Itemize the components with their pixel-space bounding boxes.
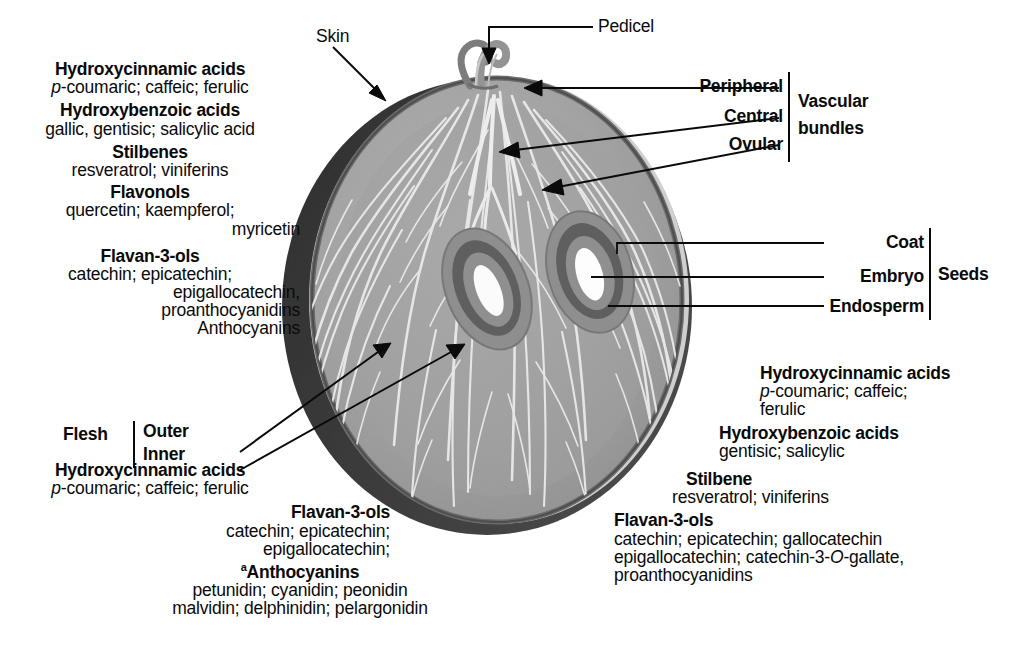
seed-group3-items: resveratrol; viniferins bbox=[598, 488, 1018, 506]
label-embryo: Embryo bbox=[780, 266, 924, 287]
seed-group1-items-line2: ferulic bbox=[598, 400, 1018, 418]
seed-group3-title: Stilbene bbox=[598, 470, 1018, 488]
skin-group2-items: gallic, gentisic; salicylic acid bbox=[0, 120, 300, 138]
label-peripheral: Peripheral bbox=[670, 76, 783, 97]
label-endosperm: Endosperm bbox=[780, 296, 924, 317]
skin-group3-items: resveratrol; viniferins bbox=[0, 161, 300, 179]
skin-group4-items-line2: myricetin bbox=[0, 220, 300, 238]
flesh-compound-list: Hydroxycinnamic acids p-coumaric; caffei… bbox=[0, 461, 420, 617]
label-pedicel: Pedicel bbox=[598, 16, 654, 37]
seed-group4-title: Flavan-3-ols bbox=[598, 511, 1018, 529]
flesh-group2-items-line1: catechin; epicatechin; bbox=[0, 522, 390, 540]
flesh-group2-title: Flavan-3-ols bbox=[0, 503, 390, 521]
skin-group1-title: Hydroxycinnamic acids bbox=[0, 60, 300, 78]
skin-group5-items-line4: Anthocyanins bbox=[0, 319, 300, 337]
flesh-group2-items-line2: epigallocatechin; bbox=[0, 540, 390, 558]
seed-group4-italic-o: O bbox=[830, 547, 843, 567]
figure-canvas: Skin Pedicel Peripheral Central Ovular V… bbox=[0, 0, 1018, 672]
skin-group1-items: p-coumaric; caffeic; ferulic bbox=[0, 78, 300, 96]
label-vascular-bundles-line2: bundles bbox=[798, 118, 864, 139]
arrowhead-skin bbox=[369, 85, 386, 101]
label-seeds: Seeds bbox=[938, 264, 989, 285]
label-flesh: Flesh bbox=[63, 424, 108, 445]
flesh-group3-items-line1: petunidin; cyanidin; peonidin bbox=[0, 581, 600, 599]
flesh-group3-title: aAnthocyanins bbox=[0, 562, 600, 581]
skin-group5-items-line3: proanthocyanidins bbox=[0, 301, 300, 319]
flesh-group3-items-line2: malvidin; delphinidin; pelargonidin bbox=[0, 599, 600, 617]
skin-group2-title: Hydroxybenzoic acids bbox=[0, 101, 300, 119]
seed-group4-line2-c: -gallate, bbox=[843, 547, 903, 567]
seed-group4-items-line3: proanthocyanidins bbox=[598, 566, 1018, 584]
skin-group4-items-line1: quercetin; kaempferol; bbox=[0, 201, 300, 219]
skin-group1-rest: -coumaric; caffeic; ferulic bbox=[61, 77, 249, 97]
label-skin: Skin bbox=[316, 26, 349, 47]
brace-seeds bbox=[929, 228, 931, 320]
skin-group5-items-line2: epigallocatechin, bbox=[0, 283, 300, 301]
skin-group4-title: Flavonols bbox=[0, 183, 300, 201]
skin-group5-title: Flavan-3-ols bbox=[0, 247, 300, 265]
seed-group4-items-line1: catechin; epicatechin; gallocatechin bbox=[598, 530, 1018, 548]
flesh-group1-rest: -coumaric; caffeic; ferulic bbox=[61, 478, 249, 498]
flesh-group3-title-text: Anthocyanins bbox=[247, 562, 360, 582]
seed-group4-items-line2: epigallocatechin; catechin-3-O-gallate, bbox=[598, 548, 1018, 566]
skin-compound-list: Hydroxycinnamic acids p-coumaric; caffei… bbox=[0, 60, 300, 338]
seed-compound-list: Hydroxycinnamic acids p-coumaric; caffei… bbox=[598, 364, 1018, 584]
seed-group1-rest: -coumaric; caffeic; bbox=[770, 381, 908, 401]
seed-group2-items: gentisic; salicylic bbox=[598, 442, 1018, 460]
seed-group4-line2-a: epigallocatechin; catechin-3- bbox=[614, 547, 830, 567]
seed-group2-title: Hydroxybenzoic acids bbox=[598, 424, 1018, 442]
label-outer: Outer bbox=[143, 421, 189, 442]
brace-vascular-bundles bbox=[788, 72, 790, 162]
flesh-group1-items: p-coumaric; caffeic; ferulic bbox=[0, 479, 300, 497]
flesh-group1-title: Hydroxycinnamic acids bbox=[0, 461, 300, 479]
skin-group5-items-line1: catechin; epicatechin; bbox=[0, 265, 300, 283]
skin-group1-italic-p: p bbox=[51, 77, 61, 97]
skin-group3-title: Stilbenes bbox=[0, 143, 300, 161]
flesh-group1-italic-p: p bbox=[51, 478, 61, 498]
seed-group1-italic-p: p bbox=[760, 381, 770, 401]
label-central: Central bbox=[670, 106, 783, 127]
label-vascular-bundles-line1: Vascular bbox=[798, 91, 868, 112]
label-coat: Coat bbox=[780, 232, 924, 253]
seed-group1-items-line1: p-coumaric; caffeic; bbox=[598, 382, 1018, 400]
label-ovular: Ovular bbox=[670, 134, 783, 155]
seed-group1-title: Hydroxycinnamic acids bbox=[598, 364, 1018, 382]
